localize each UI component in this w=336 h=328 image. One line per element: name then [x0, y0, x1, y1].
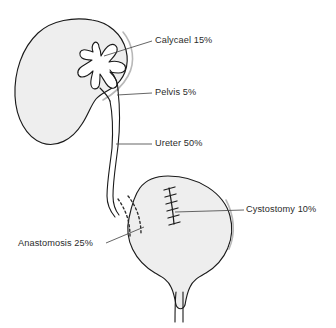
ureter-medial-wall [107, 101, 115, 217]
urethra-left-wall [175, 292, 176, 322]
label-pelvis: Pelvis 5% [155, 88, 196, 97]
ureter-group [107, 90, 120, 217]
label-cystostomy: Cystostomy 10% [246, 205, 316, 214]
ureter-lateral-wall [113, 90, 120, 215]
urinary-tract-diagram: Calycael 15% Pelvis 5% Ureter 50% Cystos… [0, 0, 336, 328]
bladder-outline [128, 176, 232, 309]
anatomy-illustration [0, 0, 336, 328]
label-calycael: Calycael 15% [155, 36, 212, 45]
leader-pelvis [117, 93, 152, 95]
label-anastomosis: Anastomosis 25% [18, 239, 93, 248]
kidney-group [15, 19, 133, 145]
bladder-group [128, 176, 233, 322]
label-ureter: Ureter 50% [155, 139, 202, 148]
